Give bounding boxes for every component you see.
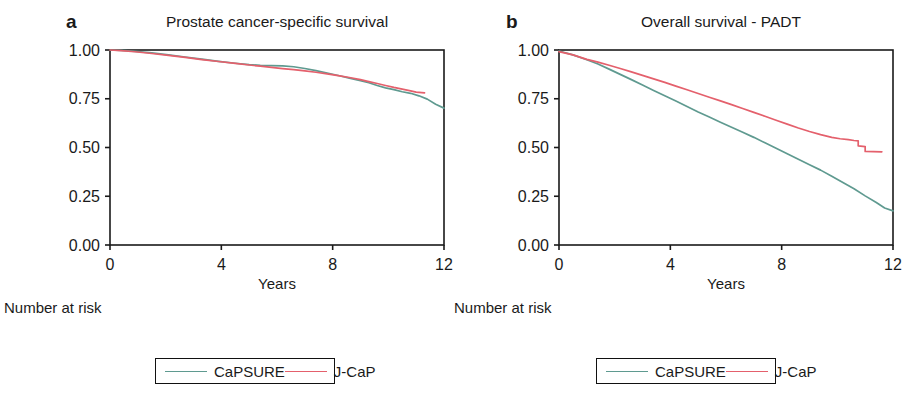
svg-text:Years: Years <box>707 275 745 292</box>
legend-item-capsure-b: CaPSURE <box>606 364 726 379</box>
legend-line-capsure-b <box>606 371 648 372</box>
figure-root: a Prostate cancer-specific survival 0.00… <box>0 0 911 413</box>
svg-text:0: 0 <box>106 256 115 273</box>
legend-line-jcap-a <box>285 371 327 372</box>
legend-item-jcap-b: J-CaP <box>726 364 817 379</box>
legend-line-jcap-b <box>726 371 768 372</box>
svg-text:0: 0 <box>555 256 564 273</box>
legend-a: CaPSURE J-CaP <box>155 358 335 384</box>
svg-text:0.25: 0.25 <box>518 188 549 205</box>
legend-b: CaPSURE J-CaP <box>596 358 776 384</box>
svg-text:1.00: 1.00 <box>518 42 549 59</box>
svg-text:0.50: 0.50 <box>69 139 100 156</box>
legend-item-jcap-a: J-CaP <box>285 364 376 379</box>
svg-text:8: 8 <box>328 256 337 273</box>
legend-label-capsure-b: CaPSURE <box>655 364 726 379</box>
legend-item-capsure-a: CaPSURE <box>165 364 285 379</box>
svg-text:0.00: 0.00 <box>69 237 100 254</box>
svg-text:0.75: 0.75 <box>518 90 549 107</box>
svg-text:8: 8 <box>777 256 786 273</box>
risk-table-title-a: Number at risk <box>4 300 102 315</box>
svg-text:1.00: 1.00 <box>69 42 100 59</box>
legend-label-capsure-a: CaPSURE <box>214 364 285 379</box>
svg-text:12: 12 <box>435 256 453 273</box>
svg-text:Years: Years <box>258 275 296 292</box>
legend-label-jcap-a: J-CaP <box>334 364 376 379</box>
panel-b-plot: 0.000.250.500.751.0004812YearsCaPSURE163… <box>456 0 911 300</box>
legend-line-capsure-a <box>165 371 207 372</box>
svg-text:4: 4 <box>666 256 675 273</box>
legend-label-jcap-b: J-CaP <box>775 364 817 379</box>
svg-text:4: 4 <box>217 256 226 273</box>
svg-text:0.00: 0.00 <box>518 237 549 254</box>
svg-text:0.50: 0.50 <box>518 139 549 156</box>
svg-text:0.75: 0.75 <box>69 90 100 107</box>
panel-a-plot: 0.000.250.500.751.0004812YearsCaPSURE163… <box>0 0 455 300</box>
risk-table-title-b: Number at risk <box>454 300 552 315</box>
svg-text:0.25: 0.25 <box>69 188 100 205</box>
panel-a: a Prostate cancer-specific survival 0.00… <box>0 0 455 413</box>
panel-b: b Overall survival - PADT 0.000.250.500.… <box>456 0 911 413</box>
svg-text:12: 12 <box>884 256 902 273</box>
